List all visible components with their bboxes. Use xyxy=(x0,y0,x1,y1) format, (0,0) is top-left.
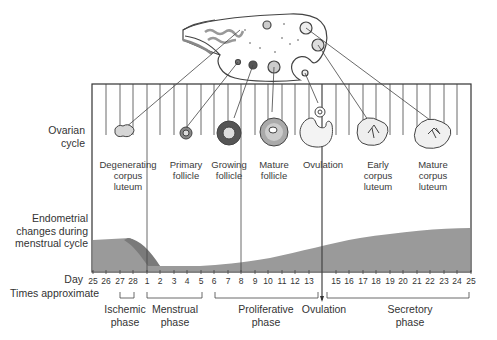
stage-label-primary-follicle: Primary follicle xyxy=(166,159,206,181)
endometrial-changes-label: Endometrial changes during menstrual cyc… xyxy=(0,212,88,250)
mature-corpus-luteum-icon xyxy=(414,119,451,148)
ovary-illustration xyxy=(183,14,327,81)
degenerating-corpus-luteum-icon xyxy=(115,125,134,137)
stage-label-degenerating-corpus-luteum: Degenerating corpus luteum xyxy=(95,159,161,192)
times-approximate-label: Times approximate xyxy=(0,287,99,300)
stage-label-ovulation: Ovulation xyxy=(298,159,348,170)
phase-label-ovulation: Ovulation xyxy=(299,303,349,316)
stage-icons xyxy=(115,107,451,148)
phase-brackets xyxy=(120,292,469,298)
phase-label-secretory: Secretory phase xyxy=(380,303,440,329)
phase-label-proliferative: Proliferative phase xyxy=(228,303,304,329)
proliferative-bracket xyxy=(215,292,318,298)
day-label: Day xyxy=(0,273,83,286)
menstrual-bracket xyxy=(147,292,202,298)
ischemic-bracket xyxy=(120,292,134,298)
stage-label-early-corpus-luteum: Early corpus luteum xyxy=(355,159,401,192)
stage-label-mature-corpus-luteum: Mature corpus luteum xyxy=(410,159,456,192)
stage-label-mature-follicle: Mature follicle xyxy=(254,159,294,181)
ovulation-arrow-icon xyxy=(320,296,324,302)
stage-connectors xyxy=(125,28,430,128)
ovulation-icon xyxy=(300,118,332,147)
secretory-bracket xyxy=(327,292,469,298)
phase-label-menstrual: Menstrual phase xyxy=(145,303,205,329)
ovarian-cycle-label: Ovarian cycle xyxy=(0,124,85,149)
stage-label-growing-follicle: Growing follicle xyxy=(208,159,250,181)
